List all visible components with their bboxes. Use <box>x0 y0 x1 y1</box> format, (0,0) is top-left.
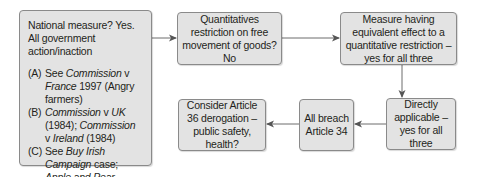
article-36-text: Consider Article 36 derogation – public … <box>183 99 261 151</box>
case-label: (A) <box>28 67 45 106</box>
case-text: Commission v UK (1984); Commission v Ire… <box>45 106 143 145</box>
quantitative-restriction-text: Quantitatives restriction on free moveme… <box>182 13 277 65</box>
node-meqr: Measure having equivalent effect to a qu… <box>340 12 457 65</box>
case-list-item: (C)See Buy Irish Campaign case; Apple an… <box>28 145 143 177</box>
case-label: (B) <box>28 106 45 145</box>
node-quantitative-restriction: Quantitatives restriction on free moveme… <box>177 12 282 65</box>
node-all-breach: All breach Article 34 <box>299 99 354 151</box>
case-text: See Buy Irish Campaign case; Apple and P… <box>45 145 143 177</box>
node-directly-applicable: Directly applicable – yes for all three <box>386 98 456 150</box>
meqr-text: Measure having equivalent effect to a qu… <box>345 13 452 65</box>
national-measure-lead: National measure? Yes. All government ac… <box>28 19 143 58</box>
case-list: (A)See Commission v France 1997 (Angry f… <box>28 67 143 177</box>
all-breach-text: All breach Article 34 <box>304 112 349 138</box>
case-list-item: (A)See Commission v France 1997 (Angry f… <box>28 67 143 106</box>
directly-applicable-text: Directly applicable – yes for all three <box>391 98 451 150</box>
node-article-36: Consider Article 36 derogation – public … <box>178 99 266 151</box>
case-label: (C) <box>28 145 45 177</box>
case-text: See Commission v France 1997 (Angry farm… <box>45 67 143 106</box>
node-national-measure: National measure? Yes. All government ac… <box>19 10 152 166</box>
case-list-item: (B)Commission v UK (1984); Commission v … <box>28 106 143 145</box>
